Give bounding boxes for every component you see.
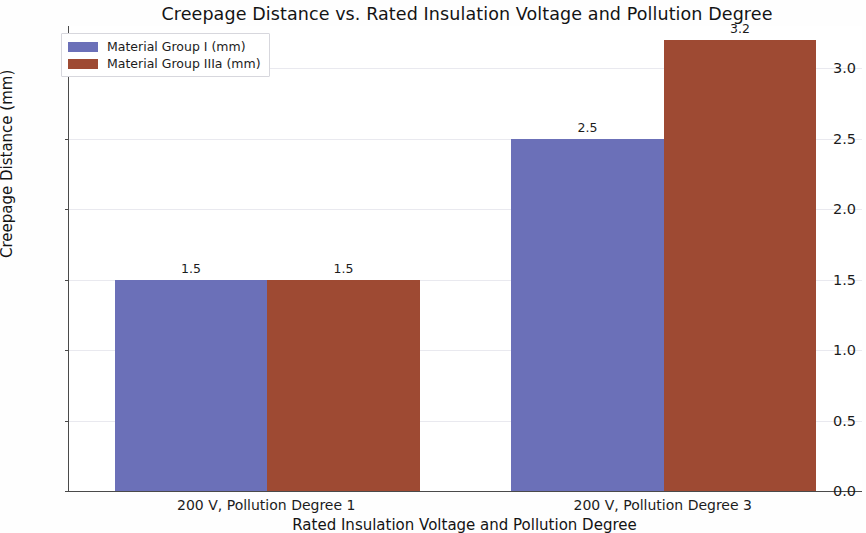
y-tick-mark <box>65 350 70 351</box>
plot-area: 1.51.52.53.2 <box>68 26 862 492</box>
y-tick-mark <box>65 491 70 492</box>
y-tick-label: 3.0 <box>833 60 856 76</box>
bar-value-label: 1.5 <box>334 261 354 276</box>
y-tick-mark <box>65 421 70 422</box>
y-tick-mark <box>65 280 70 281</box>
y-tick-label: 1.0 <box>833 342 856 358</box>
y-tick-label: 1.5 <box>833 272 856 288</box>
bar <box>664 40 817 491</box>
bar <box>267 280 420 491</box>
y-tick-label: 2.5 <box>833 131 856 147</box>
x-axis-label: Rated Insulation Voltage and Pollution D… <box>68 516 861 533</box>
chart-legend: Material Group I (mm)Material Group IIIa… <box>61 33 270 77</box>
bar-value-label: 1.5 <box>181 261 201 276</box>
legend-swatch-icon <box>68 42 98 52</box>
legend-item[interactable]: Material Group IIIa (mm) <box>68 55 261 72</box>
y-tick-label: 0.0 <box>833 483 856 499</box>
bar-value-label: 2.5 <box>577 120 597 135</box>
y-tick-label: 2.0 <box>833 201 856 217</box>
legend-item[interactable]: Material Group I (mm) <box>68 38 261 55</box>
y-axis-label: Creepage Distance (mm) <box>0 70 16 258</box>
y-tick-mark <box>65 139 70 140</box>
legend-label: Material Group I (mm) <box>107 39 246 54</box>
y-tick-mark <box>65 209 70 210</box>
legend-swatch-icon <box>68 59 98 69</box>
chart-figure: Creepage Distance vs. Rated Insulation V… <box>0 0 866 533</box>
legend-label: Material Group IIIa (mm) <box>107 56 261 71</box>
bar <box>115 280 268 491</box>
x-tick-label: 200 V, Pollution Degree 1 <box>177 497 355 513</box>
bar-value-label: 3.2 <box>730 21 750 36</box>
bar <box>511 139 664 491</box>
y-tick-label: 0.5 <box>833 413 856 429</box>
x-tick-label: 200 V, Pollution Degree 3 <box>574 497 752 513</box>
